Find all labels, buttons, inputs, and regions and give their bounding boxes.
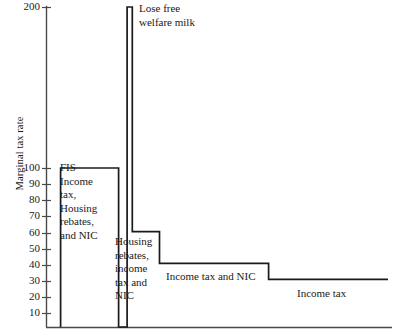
chart-figure: Marginal tax rate 2001009080706050403020… — [0, 0, 394, 336]
annotation-income-tax-and-nic: Income tax and NIC — [166, 270, 296, 284]
annotation-welfare-milk: Lose free welfare milk — [139, 2, 259, 29]
annotation-housing-block: Housing rebates, income tax and NIC — [115, 235, 171, 303]
annotation-income-tax: Income tax — [297, 287, 387, 301]
annotation-fis-block: FIS Income tax, Housing rebates, and NIC — [60, 161, 118, 243]
